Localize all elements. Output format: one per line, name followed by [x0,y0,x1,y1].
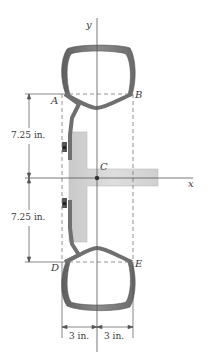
point-a-label: A [51,96,58,106]
diagram-canvas [0,0,211,354]
point-d-label: D [51,263,59,273]
right-width-dimension: 3 in. [104,332,124,341]
x-axis-label: x [188,179,194,189]
centroid-point [95,176,99,180]
point-b-label: B [135,90,142,100]
y-axis-label: y [86,20,92,30]
upper-height-dimension: 7.25 in. [11,131,45,140]
bolt-markers [62,142,67,208]
horizontal-dimension-lines [62,262,133,338]
rail-section-figure: y x A B C D E 7.25 in. 7.25 in. 3 in. 3 … [0,0,211,354]
point-e-label: E [135,259,142,269]
bottom-tube-section [62,262,136,311]
point-c-label: C [100,162,108,172]
left-width-dimension: 3 in. [69,332,89,341]
t-section-member [69,132,158,242]
lower-height-dimension: 7.25 in. [11,213,45,222]
top-tube-section [62,45,136,95]
